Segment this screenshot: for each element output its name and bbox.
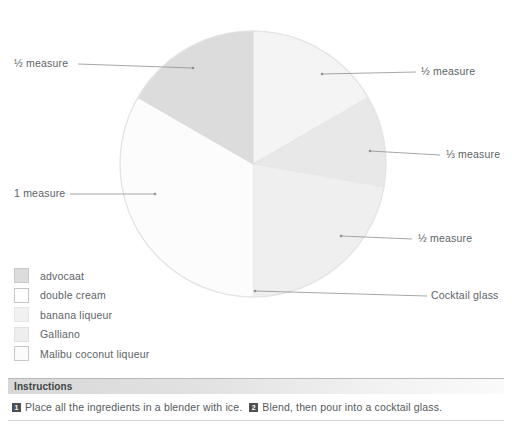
legend-item-banana-liqueur[interactable]: banana liqueur xyxy=(14,305,149,325)
callout-mid-right: ⅓ measure xyxy=(446,148,500,160)
instructions-panel: Instructions 1 Place all the ingredients… xyxy=(8,378,504,413)
legend-label-advocaat: advocaat xyxy=(40,270,84,282)
instructions-header-text: Instructions xyxy=(14,381,72,392)
legend-label-double-cream: double cream xyxy=(40,289,106,301)
legend-swatch-advocaat xyxy=(14,268,29,283)
legend-swatch-galliano xyxy=(14,327,29,342)
legend-label-malibu-coconut-liqueur: Malibu coconut liqueur xyxy=(40,348,149,360)
legend-label-banana-liqueur: banana liqueur xyxy=(40,309,112,321)
legend-swatch-banana-liqueur xyxy=(14,307,29,322)
callout-top-right: ½ measure xyxy=(421,65,475,77)
legend-swatch-double-cream xyxy=(14,288,29,303)
callout-top-left: ½ measure xyxy=(14,57,68,69)
recipe-diagram-page: ½ measure ½ measure ⅓ measure ½ measure … xyxy=(0,0,512,424)
legend: advocaat double cream banana liqueur Gal… xyxy=(14,266,149,364)
instructions-header: Instructions xyxy=(8,378,504,394)
legend-label-galliano: Galliano xyxy=(40,328,80,340)
callout-cocktail-glass: Cocktail glass xyxy=(431,289,499,301)
legend-item-galliano[interactable]: Galliano xyxy=(14,325,149,345)
legend-item-advocaat[interactable]: advocaat xyxy=(14,266,149,286)
callout-left: 1 measure xyxy=(14,187,65,199)
instructions-body: 1 Place all the ingredients in a blender… xyxy=(8,401,504,413)
legend-item-malibu-coconut-liqueur[interactable]: Malibu coconut liqueur xyxy=(14,344,149,364)
legend-item-double-cream[interactable]: double cream xyxy=(14,286,149,306)
pie-segment-malibu-coconut-liqueur[interactable] xyxy=(253,164,384,297)
step-number-2: 2 xyxy=(249,403,258,412)
step-number-1: 1 xyxy=(12,403,21,412)
legend-swatch-malibu-coconut-liqueur xyxy=(14,346,29,361)
instructions-bottom-rule xyxy=(8,420,504,421)
callout-low-right: ½ measure xyxy=(418,232,472,244)
step-text-1: Place all the ingredients in a blender w… xyxy=(25,401,242,413)
step-text-2: Blend, then pour into a cocktail glass. xyxy=(262,401,442,413)
